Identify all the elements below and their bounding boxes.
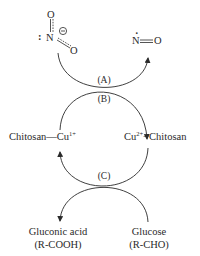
bond: — <box>46 131 57 142</box>
arc-glucose-arrow <box>60 187 148 222</box>
copper-label: Cu <box>57 131 69 142</box>
glucose-name: Glucose <box>132 227 166 238</box>
step-a-label: (A) <box>97 76 110 86</box>
reaction-arrows <box>0 0 200 256</box>
nitrite-oxygen-right: O <box>70 46 78 57</box>
step-b-label: (B) <box>98 95 111 105</box>
gluconic-acid-formula: (R-COOH) <box>34 240 81 251</box>
chitosan-label: Chitosan <box>149 131 186 142</box>
cu2-chitosan-species: Cu2+−Chitosan <box>124 132 186 143</box>
charge-1plus: 1+ <box>69 130 76 137</box>
step-c-label: (C) <box>98 172 111 182</box>
no-nitrogen: N <box>132 36 140 47</box>
nitrite-nitrogen: N <box>46 33 54 44</box>
glucose-formula: (R-CHO) <box>129 240 169 251</box>
no-oxygen: O <box>154 36 162 47</box>
chitosan-cu1-species: Chitosan—Cu1+ <box>9 132 76 143</box>
copper-label: Cu <box>124 131 136 142</box>
chitosan-label: Chitosan <box>9 131 46 142</box>
no-double-bond <box>140 40 153 43</box>
nitrite-lone-pair: : <box>38 32 42 43</box>
gluconic-acid-name: Gluconic acid <box>29 227 88 238</box>
nitrite-oxygen-top: O <box>47 10 55 21</box>
